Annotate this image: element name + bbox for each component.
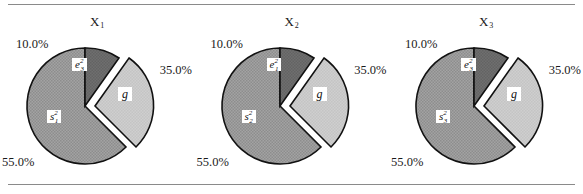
chart-title-subscript: 1 — [100, 21, 104, 30]
pie-chart-panel: X3 — [389, 6, 583, 182]
chart-title: X1 — [0, 14, 194, 30]
slice-label-s: s22 — [242, 110, 256, 123]
slice-label-g: g — [313, 87, 327, 101]
pie-chart-panel: X1 — [0, 6, 194, 182]
pct-label-e: 10.0% — [211, 37, 243, 52]
pct-label-s: 55.0% — [391, 155, 423, 170]
top-divider — [8, 4, 575, 5]
slice-label-s-sub: 2 — [249, 117, 253, 125]
chart-title: X3 — [389, 14, 583, 30]
pct-label-s: 55.0% — [197, 155, 229, 170]
chart-title-subscript: 3 — [489, 21, 493, 30]
slice-label-e-sub: 3 — [80, 65, 84, 73]
slice-label-s-sub: 1 — [55, 117, 59, 125]
slice-label-g-base: g — [122, 87, 128, 101]
pct-label-e: 10.0% — [16, 37, 48, 52]
slice-label-g: g — [118, 87, 132, 101]
chart-title-base: X — [479, 14, 489, 29]
pct-label-s: 55.0% — [2, 155, 34, 170]
pie-area: 10.0% 35.0% 55.0% g e21 s22 — [195, 32, 389, 178]
slice-label-g: g — [507, 87, 521, 101]
pct-label-g: 35.0% — [354, 63, 386, 78]
slice-label-g-base: g — [317, 87, 323, 101]
slice-label-e-sub: 3 — [469, 65, 473, 73]
bottom-divider — [8, 184, 575, 185]
chart-title: X2 — [195, 14, 389, 30]
chart-title-base: X — [285, 14, 295, 29]
slice-label-e-sub: 1 — [275, 65, 279, 73]
chart-row: X1 — [0, 6, 583, 182]
slice-label-s: s21 — [47, 110, 61, 123]
slice-label-s-sub: 3 — [444, 117, 448, 125]
slice-label-e: e23 — [72, 58, 87, 71]
pie-chart-panel: X2 — [195, 6, 389, 182]
pie-area: 10.0% 35.0% 55.0% g e23 s21 — [0, 32, 194, 178]
pie-chart-figure: X1 — [0, 0, 583, 194]
slice-label-s: s23 — [436, 110, 450, 123]
chart-title-subscript: 2 — [295, 21, 299, 30]
chart-title-base: X — [90, 14, 100, 29]
slice-label-e: e23 — [461, 58, 476, 71]
slice-label-e: e21 — [267, 58, 282, 71]
pct-label-g: 35.0% — [549, 63, 581, 78]
pct-label-e: 10.0% — [405, 37, 437, 52]
slice-label-g-base: g — [511, 87, 517, 101]
pct-label-g: 35.0% — [160, 63, 192, 78]
pie-area: 10.0% 35.0% 55.0% g e23 s23 — [389, 32, 583, 178]
